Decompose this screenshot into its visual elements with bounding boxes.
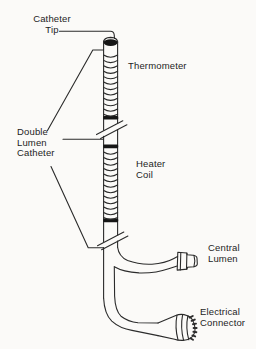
catheter-tube bbox=[103, 37, 118, 298]
catheter-tip-label-line2: Tip bbox=[27, 25, 77, 36]
heater-coil-label: Heater Coil bbox=[136, 159, 165, 180]
connector-serrations bbox=[190, 316, 197, 340]
double-lumen-label-line1: Double bbox=[17, 127, 55, 138]
electrical-connector-plug bbox=[158, 314, 197, 340]
catheter-tip-label-line1: Catheter bbox=[27, 14, 77, 25]
thermometer-label: Thermometer bbox=[128, 61, 187, 72]
electrical-connector-label-line1: Electrical bbox=[200, 307, 245, 318]
double-lumen-leader-bottom bbox=[51, 167, 103, 248]
double-lumen-leader-top bbox=[48, 50, 104, 131]
break-marks bbox=[97, 121, 128, 250]
central-lumen-label-line1: Central bbox=[208, 243, 240, 254]
central-lumen-label-line2: Lumen bbox=[208, 254, 240, 265]
double-lumen-catheter-label: Double Lumen Catheter bbox=[17, 127, 55, 159]
catheter-lower-bend bbox=[104, 267, 158, 336]
break-mark-upper bbox=[97, 121, 127, 139]
double-lumen-label-line3: Catheter bbox=[17, 148, 55, 159]
central-lumen-branch bbox=[114, 247, 177, 273]
catheter-diagram: Catheter Tip Thermometer Double Lumen Ca… bbox=[0, 0, 256, 349]
heater-coil-label-line2: Coil bbox=[136, 170, 165, 181]
catheter-tip-label: Catheter Tip bbox=[27, 14, 77, 35]
band-heater-top bbox=[103, 145, 118, 149]
heater-coil bbox=[104, 152, 118, 220]
catheter-illustration bbox=[0, 0, 256, 349]
break-mark-lower bbox=[98, 232, 128, 250]
catheter-tip-cap bbox=[104, 39, 118, 46]
heater-coil-label-line1: Heater bbox=[136, 159, 165, 170]
thermometer-label-line1: Thermometer bbox=[128, 61, 187, 72]
leader-lines bbox=[48, 31, 115, 248]
thermometer-coil bbox=[104, 55, 118, 116]
central-lumen-label: Central Lumen bbox=[208, 243, 240, 264]
electrical-connector-label-line2: Connector bbox=[200, 318, 245, 329]
central-lumen-hub bbox=[177, 252, 197, 270]
electrical-connector-label: Electrical Connector bbox=[200, 307, 245, 328]
